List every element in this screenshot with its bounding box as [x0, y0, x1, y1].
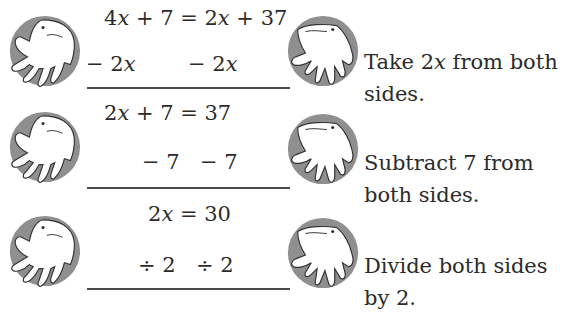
hand-icon	[4, 212, 82, 290]
hand-icon	[284, 12, 362, 90]
hand-icon	[4, 12, 82, 90]
instruction-step-1: Take 2x from bothsides.	[364, 46, 558, 110]
operation-left-step-2: − 7	[142, 150, 180, 174]
equation-step-1: 4x + 7 = 2x + 37	[104, 6, 287, 30]
operation-right-step-3: ÷ 2	[196, 253, 234, 277]
hand-icon	[4, 108, 82, 186]
equation-step-2: 2x + 7 = 37	[104, 101, 231, 125]
equation-step-3: 2x = 30	[148, 202, 231, 226]
operation-left-step-1: − 2x	[86, 52, 135, 76]
divider-line	[87, 87, 290, 89]
instruction-step-3: Divide both sidesby 2.	[364, 250, 548, 314]
instruction-step-2: Subtract 7 fromboth sides.	[364, 147, 534, 211]
divider-line	[87, 187, 290, 189]
operation-right-step-2: − 7	[200, 150, 238, 174]
divider-line	[87, 288, 290, 290]
operation-left-step-3: ÷ 2	[138, 253, 176, 277]
operation-right-step-1: − 2x	[188, 52, 237, 76]
hand-icon	[284, 214, 362, 292]
hand-icon	[284, 110, 362, 188]
